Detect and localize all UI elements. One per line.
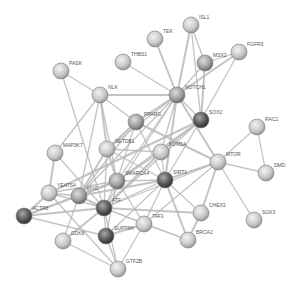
protein-node-icon[interactable] — [246, 212, 262, 228]
nodes-layer: ISL1TEKTHBS1FGFR3MSX2PASKNOTCH1NLKPPARGS… — [16, 14, 286, 277]
node-label: SIRT1 — [173, 169, 187, 175]
node-label: BRCA2 — [196, 229, 213, 235]
node-label: SMARCA4 — [125, 170, 149, 176]
protein-node-icon[interactable] — [98, 228, 114, 244]
protein-node-icon[interactable] — [210, 154, 226, 170]
node-chex2[interactable]: CHEX2 — [193, 202, 226, 221]
protein-node-icon[interactable] — [115, 54, 131, 70]
edge-mtor-sgk3 — [218, 162, 254, 220]
protein-node-icon[interactable] — [71, 188, 87, 204]
protein-node-icon[interactable] — [128, 114, 144, 130]
network-svg: ISL1TEKTHBS1FGFR3MSX2PASKNOTCH1NLKPPARGS… — [0, 0, 295, 294]
node-label: SETDB1 — [115, 138, 135, 144]
edge-thbs1-notch1 — [123, 62, 177, 95]
node-label: KDM1A — [169, 141, 187, 147]
protein-node-icon[interactable] — [16, 208, 32, 224]
node-label: NLK — [108, 84, 118, 90]
protein-node-icon[interactable] — [183, 17, 199, 33]
node-label: PPARG — [144, 111, 161, 117]
protein-node-icon[interactable] — [96, 200, 112, 216]
protein-node-icon[interactable] — [197, 55, 213, 71]
node-isl1[interactable]: ISL1 — [183, 14, 210, 33]
protein-node-icon[interactable] — [153, 144, 169, 160]
protein-node-icon[interactable] — [55, 233, 71, 249]
protein-node-icon[interactable] — [53, 63, 69, 79]
protein-node-icon[interactable] — [249, 119, 265, 135]
edge-setdb1-atf — [104, 149, 107, 208]
node-label: MTOR — [226, 151, 241, 157]
node-tek[interactable]: TEK — [147, 28, 173, 47]
node-dmd[interactable]: DMD — [258, 162, 286, 181]
protein-node-icon[interactable] — [157, 172, 173, 188]
protein-node-icon[interactable] — [41, 185, 57, 201]
protein-node-icon[interactable] — [258, 165, 274, 181]
protein-node-icon[interactable] — [147, 31, 163, 47]
node-label: FGFR3 — [247, 41, 264, 47]
protein-node-icon[interactable] — [47, 145, 63, 161]
node-label: ACTR8 — [32, 205, 49, 211]
protein-node-icon[interactable] — [180, 232, 196, 248]
node-label: ATF — [112, 197, 121, 203]
node-label: SUPT6H — [114, 225, 134, 231]
node-label: TEK — [163, 28, 173, 34]
edge-tek-notch1 — [155, 39, 177, 95]
node-label: NOTCH1 — [185, 84, 206, 90]
protein-node-icon[interactable] — [193, 112, 209, 128]
protein-node-icon[interactable] — [193, 205, 209, 221]
node-cdk8[interactable]: CDK8 — [55, 230, 85, 249]
node-label: TAF1 — [152, 213, 164, 219]
node-sox2[interactable]: SOX2 — [193, 109, 223, 128]
node-label: ISL1 — [199, 14, 210, 20]
node-nlk[interactable]: NLK — [92, 84, 118, 103]
node-label: MAP3K7 — [63, 142, 83, 148]
protein-node-icon[interactable] — [110, 261, 126, 277]
node-label: THBS1 — [131, 51, 147, 57]
protein-node-icon[interactable] — [231, 44, 247, 60]
protein-node-icon[interactable] — [169, 87, 185, 103]
protein-node-icon[interactable] — [109, 173, 125, 189]
node-label: YEATS4 — [57, 182, 76, 188]
protein-node-icon[interactable] — [136, 216, 152, 232]
node-sgk3[interactable]: SGK3 — [246, 209, 276, 228]
node-label: PASK — [69, 60, 83, 66]
node-label: CHEX2 — [209, 202, 226, 208]
edge-sirt1-brca2 — [165, 180, 188, 240]
node-fgfr3[interactable]: FGFR3 — [231, 41, 264, 60]
edge-msx2-sox2 — [201, 63, 205, 120]
node-label: SGK3 — [262, 209, 276, 215]
node-label: RAC1 — [265, 116, 279, 122]
node-label: SOX2 — [209, 109, 223, 115]
node-pask[interactable]: PASK — [53, 60, 83, 79]
node-map3k7[interactable]: MAP3K7 — [47, 142, 83, 161]
node-label: CDK8 — [71, 230, 85, 236]
node-label: MYC — [87, 185, 99, 191]
node-label: DMD — [274, 162, 286, 168]
node-label: GTF2B — [126, 258, 143, 264]
node-mtor[interactable]: MTOR — [210, 151, 241, 170]
node-label: MSX2 — [213, 52, 227, 58]
network-diagram: ISL1TEKTHBS1FGFR3MSX2PASKNOTCH1NLKPPARGS… — [0, 0, 295, 294]
node-supt6h[interactable]: SUPT6H — [98, 225, 134, 244]
protein-node-icon[interactable] — [99, 141, 115, 157]
node-rac1[interactable]: RAC1 — [249, 116, 279, 135]
protein-node-icon[interactable] — [92, 87, 108, 103]
